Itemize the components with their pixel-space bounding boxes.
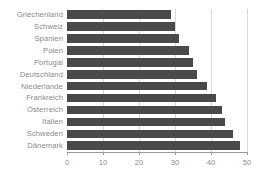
bar — [67, 106, 222, 115]
bar — [67, 10, 171, 19]
bar-row — [67, 140, 247, 152]
bar-row — [67, 92, 247, 104]
bar — [67, 46, 189, 55]
axis-tick — [103, 152, 104, 155]
category-label: Schweden — [0, 128, 63, 140]
x-axis-tick-label: 40 — [199, 157, 223, 168]
bar — [67, 130, 233, 139]
bar — [67, 34, 179, 43]
axis-tick — [247, 152, 248, 155]
axis-tick — [67, 152, 68, 155]
x-axis-tick-label: 10 — [91, 157, 115, 168]
bar — [67, 82, 207, 91]
bar-row — [67, 69, 247, 81]
category-label: Portugal — [0, 57, 63, 69]
bar — [67, 58, 193, 67]
plot-area — [67, 9, 247, 152]
category-label: Spanien — [0, 33, 63, 45]
axis-tick — [211, 152, 212, 155]
gridline — [247, 9, 248, 152]
bar-row — [67, 116, 247, 128]
axis-tick — [139, 152, 140, 155]
bar-series — [67, 9, 247, 152]
bar-row — [67, 104, 247, 116]
axis-tick — [175, 152, 176, 155]
x-axis-tick-label: 50 — [235, 157, 257, 168]
bar-row — [67, 33, 247, 45]
bar-row — [67, 57, 247, 69]
category-label: Dänemark — [0, 140, 63, 152]
bar — [67, 22, 175, 31]
category-label: Deutschland — [0, 69, 63, 81]
bar-row — [67, 21, 247, 33]
bar — [67, 118, 225, 127]
bar-row — [67, 128, 247, 140]
category-label: Italien — [0, 116, 63, 128]
x-axis-tick-label: 20 — [127, 157, 151, 168]
category-label: Schweiz — [0, 21, 63, 33]
category-label: Niederlande — [0, 81, 63, 93]
x-axis-line — [67, 152, 248, 153]
bar — [67, 70, 197, 79]
bar-row — [67, 9, 247, 21]
category-label: Polen — [0, 45, 63, 57]
bar-chart: GriechenlandSchweizSpanienPolenPortugalD… — [0, 0, 257, 178]
bar-row — [67, 45, 247, 57]
bar-row — [67, 81, 247, 93]
category-label: Frankreich — [0, 92, 63, 104]
bar — [67, 94, 216, 103]
x-axis-tick-label: 30 — [163, 157, 187, 168]
category-axis-labels: GriechenlandSchweizSpanienPolenPortugalD… — [0, 9, 63, 152]
x-axis-tick-label: 0 — [55, 157, 79, 168]
bar — [67, 141, 240, 150]
x-axis-tick-labels: 01020304050 — [0, 157, 257, 171]
category-label: Griechenland — [0, 9, 63, 21]
category-label: Österreich — [0, 104, 63, 116]
